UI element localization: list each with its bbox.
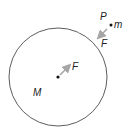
force-label-on-m: F [101,38,108,49]
force-arrow-on-M [60,67,68,75]
mass-label-M: M [33,87,42,98]
circle-gap [79,30,82,33]
force-label-on-M: F [72,61,79,72]
point-label-P: P [100,11,107,22]
center-of-mass-M [56,75,59,78]
circle-gap [37,27,40,30]
force-arrow-on-m [100,29,107,36]
point-mass-m [110,24,113,27]
gravity-diagram: F M P m F [0,0,130,128]
mass-label-m: m [114,19,122,30]
